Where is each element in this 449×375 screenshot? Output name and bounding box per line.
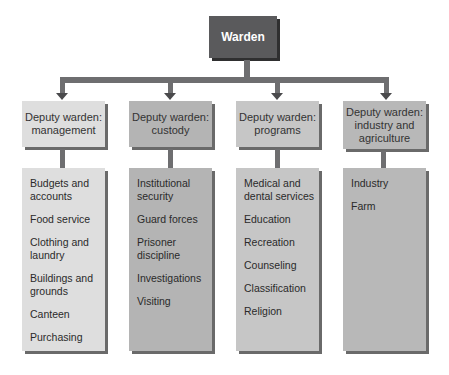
- list-item: Buildings and grounds: [30, 272, 105, 298]
- header-label: Deputy warden: custody: [129, 111, 212, 137]
- list-item: Education: [244, 213, 319, 226]
- list-item: Visiting: [137, 295, 212, 308]
- list-item: Purchasing: [30, 331, 105, 344]
- header-stem: [60, 149, 65, 169]
- arrow-stem-1: [60, 80, 65, 93]
- list-programs: Medical and dental services Education Re…: [236, 168, 319, 351]
- list-item: Guard forces: [137, 213, 212, 226]
- list-item: Clothing and laundry: [30, 236, 105, 262]
- list-item: Budgets and accounts: [30, 177, 105, 203]
- arrow-down-icon: [380, 93, 392, 100]
- list-item: Investigations: [137, 272, 212, 285]
- header-stem: [168, 149, 173, 169]
- header-stem: [275, 149, 280, 169]
- arrow-stem-4: [384, 80, 389, 93]
- warden-box: Warden: [209, 16, 277, 58]
- horizontal-connector: [60, 77, 389, 83]
- header-label: Deputy warden: management: [22, 111, 105, 137]
- list-item: Farm: [351, 200, 426, 213]
- list-item: Canteen: [30, 308, 105, 321]
- list-management: Budgets and accounts Food service Clothi…: [22, 168, 105, 351]
- list-item: Medical and dental services: [244, 177, 319, 203]
- list-item: Food service: [30, 213, 105, 226]
- list-item: Counseling: [244, 259, 319, 272]
- arrow-stem-2: [168, 80, 173, 93]
- header-label: Deputy warden: programs: [236, 111, 319, 137]
- warden-label: Warden: [221, 30, 265, 44]
- list-item: Classification: [244, 282, 319, 295]
- header-stem: [381, 151, 386, 169]
- list-item: Industry: [351, 177, 426, 190]
- header-label: Deputy warden: industry and agriculture: [343, 106, 426, 145]
- list-industry-agriculture: Industry Farm: [343, 168, 426, 351]
- header-custody: Deputy warden: custody: [129, 101, 212, 147]
- arrow-down-icon: [271, 93, 283, 100]
- header-programs: Deputy warden: programs: [236, 101, 319, 147]
- list-item: Recreation: [244, 236, 319, 249]
- list-item: Prisoner discipline: [137, 236, 212, 262]
- arrow-down-icon: [164, 93, 176, 100]
- header-industry-agriculture: Deputy warden: industry and agriculture: [343, 101, 426, 149]
- arrow-stem-3: [275, 80, 280, 93]
- arrow-down-icon: [56, 93, 68, 100]
- header-management: Deputy warden: management: [22, 101, 105, 147]
- list-item: Institutional security: [137, 177, 212, 203]
- list-custody: Institutional security Guard forces Pris…: [129, 168, 212, 351]
- list-item: Religion: [244, 305, 319, 318]
